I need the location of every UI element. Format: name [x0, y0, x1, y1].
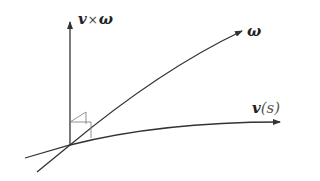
v-symbol: v [252, 99, 261, 117]
omega-symbol: ω [99, 10, 113, 28]
velocity-label: v(s) [252, 101, 280, 116]
omega-symbol: ω [247, 22, 261, 40]
cross-product-symbol: × [87, 13, 99, 27]
right-angle-marker [70, 112, 91, 138]
vxw-label: v×ω [78, 12, 113, 27]
omega-axis-arrow [37, 31, 242, 172]
omega-label: ω [247, 24, 261, 39]
close-paren: ) [274, 99, 280, 117]
velocity-curve-arrow [25, 122, 280, 158]
v-symbol: v [78, 10, 87, 28]
